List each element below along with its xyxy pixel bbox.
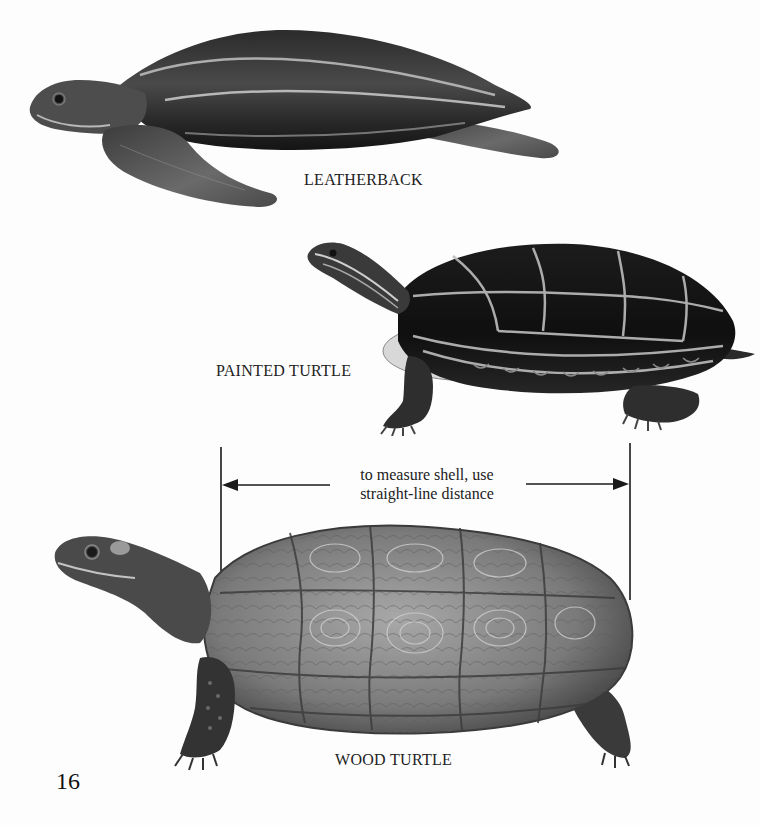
caption-line-2: straight-line distance xyxy=(339,484,515,503)
left-arrow-head-icon xyxy=(222,479,238,491)
wood-turtle-label: WOOD TURTLE xyxy=(335,751,452,769)
page-number: 16 xyxy=(56,768,80,795)
field-guide-page: LEATHERBACK xyxy=(0,0,760,825)
caption-line-1: to measure shell, use xyxy=(339,465,515,484)
measurement-caption: to measure shell, use straight-line dist… xyxy=(333,465,521,503)
right-arrow-head-icon xyxy=(613,478,629,490)
wood-turtle-illustration xyxy=(50,518,680,773)
